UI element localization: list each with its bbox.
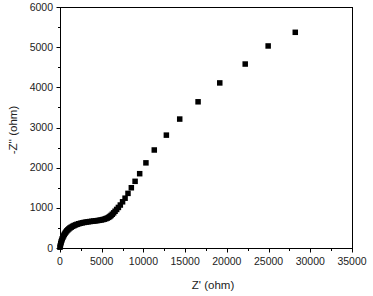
data-point-marker (242, 61, 248, 67)
data-point-marker (137, 171, 143, 177)
data-point-marker (293, 30, 299, 36)
data-point-marker (265, 43, 271, 49)
data-point-marker (164, 132, 170, 138)
x-tick-label: 0 (57, 255, 63, 267)
data-point-marker (195, 99, 201, 105)
x-tick-label: 35000 (337, 255, 366, 267)
y-tick-label: 1000 (30, 201, 54, 213)
data-points (57, 30, 298, 250)
x-tick-label: 30000 (296, 255, 325, 267)
nyquist-chart: 05000100001500020000250003000035000 0100… (0, 0, 373, 296)
data-point-marker (152, 147, 158, 153)
data-point-marker (177, 116, 183, 122)
x-tick-label: 5000 (90, 255, 114, 267)
data-point-marker (217, 80, 223, 86)
data-point-marker (143, 160, 149, 166)
y-tick-label: 5000 (30, 41, 54, 53)
x-axis-ticks: 05000100001500020000250003000035000 (57, 249, 367, 268)
data-point-marker (129, 185, 135, 191)
y-tick-label: 4000 (30, 81, 54, 93)
data-point-marker (122, 195, 128, 201)
data-point-marker (132, 179, 138, 185)
x-tick-label: 15000 (171, 255, 200, 267)
y-tick-label: 2000 (30, 161, 54, 173)
x-tick-label: 20000 (212, 255, 241, 267)
x-tick-label: 25000 (254, 255, 283, 267)
y-tick-label: 0 (47, 242, 53, 254)
y-tick-label: 6000 (30, 1, 54, 13)
x-axis-label: Z' (ohm) (192, 279, 235, 291)
plot-frame (61, 8, 353, 249)
y-axis-ticks: 0100020003000400050006000 (30, 1, 61, 254)
data-point-marker (125, 191, 131, 197)
y-axis-label: -Z'' (ohm) (7, 106, 19, 155)
y-tick-label: 3000 (30, 121, 54, 133)
x-tick-label: 10000 (129, 255, 158, 267)
